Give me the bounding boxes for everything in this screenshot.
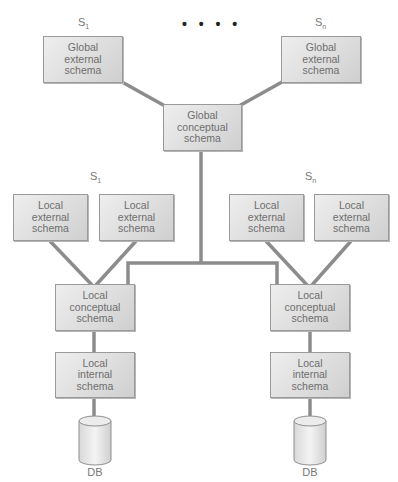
box-label: Global external schema <box>64 42 101 77</box>
box-label: Local conceptual schema <box>70 290 121 325</box>
database-cylinder-icon <box>293 415 327 467</box>
box-label: Local conceptual schema <box>285 290 336 325</box>
database-cylinder-icon <box>78 415 112 467</box>
db-label-site1: DB <box>79 466 111 478</box>
box-label: Global conceptual schema <box>177 110 228 145</box>
site-label-sn-mid: Sn <box>305 170 316 184</box>
schema-architecture-diagram: • • • • S1 Sn S1 Sn Global external sche… <box>0 0 398 482</box>
siten-local-external-schema-box-b: Local external schema <box>314 194 389 241</box>
box-label: Local external schema <box>333 200 370 235</box>
db-label-siten: DB <box>294 466 326 478</box>
siten-local-internal-schema-box: Local internal schema <box>270 352 350 398</box>
site1-local-internal-schema-box: Local internal schema <box>55 352 135 398</box>
box-label: Local internal schema <box>77 358 114 393</box>
site1-local-conceptual-schema-box: Local conceptual schema <box>55 284 135 331</box>
siten-local-conceptual-schema-box: Local conceptual schema <box>270 284 350 331</box>
box-label: Local internal schema <box>292 358 329 393</box>
site-label-sn-top: Sn <box>315 16 326 30</box>
siten-local-external-schema-box-a: Local external schema <box>229 194 304 241</box>
site-label-sub: n <box>312 177 316 184</box>
box-label: Local external schema <box>118 200 155 235</box>
box-label: Local external schema <box>248 200 285 235</box>
site-label-s1-mid: S1 <box>90 170 101 184</box>
ellipsis: • • • • <box>182 16 241 32</box>
site1-local-external-schema-box-a: Local external schema <box>13 194 88 241</box>
site-label-s1-top: S1 <box>78 16 89 30</box>
site-label-sub: 1 <box>85 23 89 30</box>
site-label-sub: n <box>322 23 326 30</box>
global-external-schema-box-left: Global external schema <box>43 36 123 83</box>
site-label-sub: 1 <box>97 177 101 184</box>
site1-local-external-schema-box-b: Local external schema <box>99 194 174 241</box>
global-external-schema-box-right: Global external schema <box>281 36 361 83</box>
box-label: Local external schema <box>32 200 69 235</box>
box-label: Global external schema <box>302 42 339 77</box>
global-conceptual-schema-box: Global conceptual schema <box>163 104 242 151</box>
